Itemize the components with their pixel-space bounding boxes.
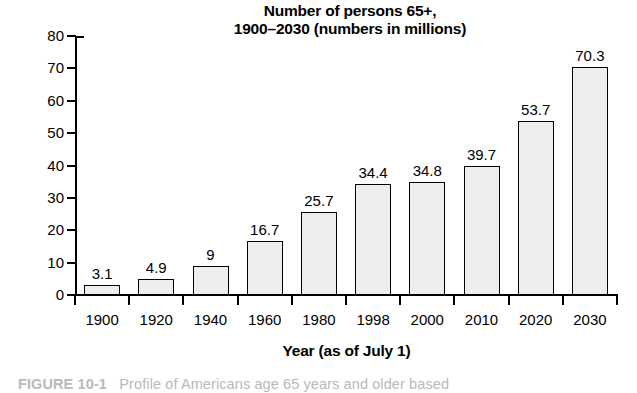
x-axis-tick <box>182 296 184 305</box>
bar-value-label: 34.8 <box>400 163 454 178</box>
x-axis-tick-label: 2020 <box>509 312 563 328</box>
bar <box>84 285 120 295</box>
x-axis-tick <box>291 296 293 305</box>
figure-caption: FIGURE 10-1 Profile of Americans age 65 … <box>18 376 637 393</box>
bar-value-label: 70.3 <box>563 48 617 63</box>
figure-caption-number: FIGURE 10-1 <box>18 376 107 392</box>
y-axis-tick-label-text: 80 <box>34 28 64 43</box>
x-axis-tick-label: 1920 <box>129 312 183 328</box>
bar <box>301 212 337 295</box>
y-axis-tick <box>67 165 76 167</box>
bar <box>518 121 554 295</box>
x-axis-tick <box>237 296 239 305</box>
x-axis-tick <box>616 296 618 305</box>
y-axis-tick-label-text: 70 <box>34 60 64 75</box>
y-axis-tick-label-text: 50 <box>34 125 64 140</box>
y-axis-tick <box>67 132 76 134</box>
y-axis-tick <box>67 35 76 37</box>
y-axis-tick <box>67 229 76 231</box>
y-axis-tick-label-text: 60 <box>34 93 64 108</box>
x-axis-tick-label: 1960 <box>238 312 292 328</box>
plot-area: 80706050403020100 3.14.9916.725.734.434.… <box>0 0 637 340</box>
x-axis-tick-label: 1980 <box>292 312 346 328</box>
y-axis-tick-label-text: 20 <box>34 222 64 237</box>
bar <box>193 266 229 295</box>
bar-value-label: 4.9 <box>129 260 183 275</box>
bar <box>355 184 391 295</box>
x-axis-tick <box>508 296 510 305</box>
bar-value-label: 53.7 <box>509 102 563 117</box>
bar-value-label: 25.7 <box>292 193 346 208</box>
bar-value-label: 3.1 <box>75 266 129 281</box>
bar-value-label: 39.7 <box>454 147 508 162</box>
x-axis-tick <box>399 296 401 305</box>
x-axis-tick-label: 1900 <box>75 312 129 328</box>
x-axis-tick <box>345 296 347 305</box>
bar-value-label: 9 <box>183 247 237 262</box>
y-axis-tick <box>67 197 76 199</box>
x-axis-tick-label: 1940 <box>183 312 237 328</box>
y-axis-tick <box>67 262 76 264</box>
y-axis-tick <box>67 100 76 102</box>
bar <box>138 279 174 295</box>
bar <box>464 166 500 295</box>
y-axis-tick-label-text: 0 <box>34 287 64 302</box>
bar-value-label: 16.7 <box>238 222 292 237</box>
x-axis-tick-label: 2030 <box>563 312 617 328</box>
figure-container: Number of persons 65+, 1900–2030 (number… <box>0 0 637 393</box>
y-axis-tick-label-text: 30 <box>34 190 64 205</box>
x-axis-title: Year (as of July 1) <box>75 342 618 360</box>
y-axis-tick <box>67 67 76 69</box>
x-axis-tick-label: 2010 <box>454 312 508 328</box>
y-axis-top-cap <box>75 36 84 38</box>
y-axis-tick-label-text: 10 <box>34 255 64 270</box>
x-axis-tick-label: 2000 <box>400 312 454 328</box>
bar <box>247 241 283 295</box>
x-axis-tick-label: 1998 <box>346 312 400 328</box>
x-axis-tick <box>453 296 455 305</box>
figure-caption-text: Profile of Americans age 65 years and ol… <box>119 376 449 392</box>
x-axis-tick <box>74 296 76 305</box>
y-axis-tick-label-text: 40 <box>34 158 64 173</box>
bar <box>409 182 445 295</box>
bar-value-label: 34.4 <box>346 165 400 180</box>
bar <box>572 67 608 295</box>
x-axis-tick <box>562 296 564 305</box>
x-axis-tick <box>128 296 130 305</box>
